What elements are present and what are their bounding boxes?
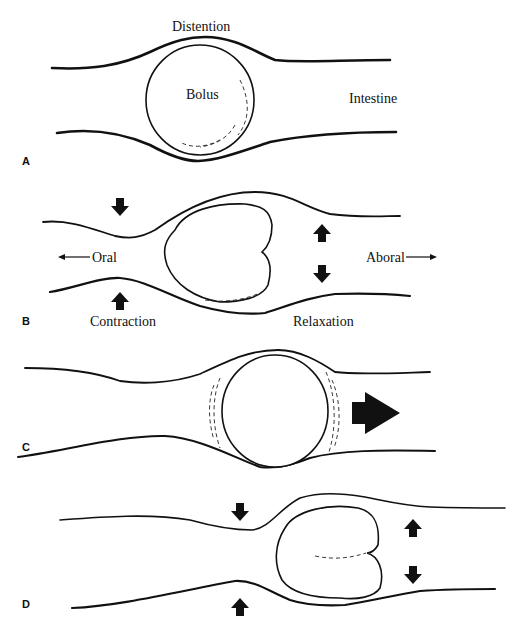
relaxation-label: Relaxation [293, 314, 354, 329]
aboral-label: Aboral [366, 250, 405, 265]
intestine-top-wall-d [60, 494, 505, 530]
panel-c: C [18, 350, 435, 468]
contraction-arrow-down-icon [111, 198, 129, 216]
propulsion-arrow-icon [352, 392, 400, 434]
relaxation-arrow-up-icon-d [404, 519, 422, 537]
bolus-motion-lines-left [210, 378, 221, 448]
aboral-direction-arrow-icon [406, 254, 437, 260]
contraction-arrow-up-icon-d [231, 598, 249, 616]
relaxation-arrow-down-icon [313, 265, 331, 283]
relaxation-arrow-up-icon [313, 224, 331, 242]
peristalsis-diagram: Distention Bolus Intestine A Oral Aboral… [0, 0, 532, 622]
panel-label-a: A [22, 155, 30, 167]
panel-b: Oral Aboral Contraction Relaxation B [22, 192, 437, 329]
panel-a: Distention Bolus Intestine A [22, 19, 397, 167]
intestine-bottom-wall-c [18, 436, 435, 468]
panel-label-b: B [22, 315, 30, 327]
bolus-c [222, 355, 328, 467]
bolus-d [276, 506, 381, 598]
panel-label-c: C [22, 441, 30, 453]
bolus-label: Bolus [186, 87, 219, 102]
intestine-top-wall-c [25, 350, 430, 383]
intestine-bottom-wall-d [72, 581, 495, 608]
contraction-label: Contraction [90, 314, 156, 329]
panel-d: D [22, 494, 505, 616]
relaxation-arrow-down-icon-d [404, 566, 422, 584]
contraction-arrow-down-icon-d [231, 503, 249, 521]
oral-direction-arrow-icon [58, 254, 90, 260]
panel-label-d: D [22, 598, 30, 610]
bolus-b [165, 204, 272, 302]
contraction-arrow-up-icon [111, 292, 129, 310]
distention-label: Distention [172, 19, 230, 34]
intestine-label: Intestine [349, 91, 397, 106]
oral-label: Oral [92, 250, 117, 265]
